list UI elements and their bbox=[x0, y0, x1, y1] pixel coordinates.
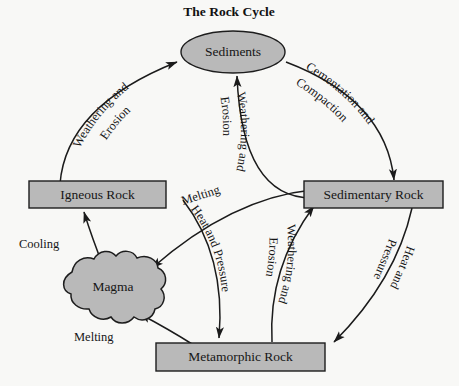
label-melting-upper: Melting bbox=[180, 182, 223, 208]
node-magma[interactable]: Magma bbox=[64, 251, 166, 323]
metamorphic-rock-label: Metamorphic Rock bbox=[188, 349, 293, 364]
label-weathering-center-line1: Weathering and bbox=[233, 91, 252, 174]
diagram-canvas: The Rock Cycle Sediments Igneous Roc bbox=[0, 0, 459, 386]
label-weathering-center-line2: Erosion bbox=[218, 96, 235, 137]
sedimentary-rock-label: Sedimentary Rock bbox=[323, 187, 423, 202]
label-melting-lower: Melting bbox=[74, 330, 114, 344]
magma-label: Magma bbox=[92, 279, 133, 294]
sediments-label: Sediments bbox=[205, 44, 261, 59]
igneous-rock-label: Igneous Rock bbox=[60, 187, 135, 202]
node-sediments[interactable]: Sediments bbox=[181, 31, 285, 73]
node-sedimentary-rock[interactable]: Sedimentary Rock bbox=[304, 181, 443, 208]
node-igneous-rock[interactable]: Igneous Rock bbox=[29, 181, 166, 208]
rock-cycle-diagram: The Rock Cycle Sediments Igneous Roc bbox=[0, 0, 459, 386]
page-title: The Rock Cycle bbox=[183, 4, 275, 19]
label-weathering-lower-line1: Weathering and bbox=[275, 224, 299, 307]
node-metamorphic-rock[interactable]: Metamorphic Rock bbox=[156, 343, 325, 371]
label-cooling: Cooling bbox=[19, 237, 60, 251]
label-weathering-lower-line2: Erosion bbox=[263, 237, 281, 278]
